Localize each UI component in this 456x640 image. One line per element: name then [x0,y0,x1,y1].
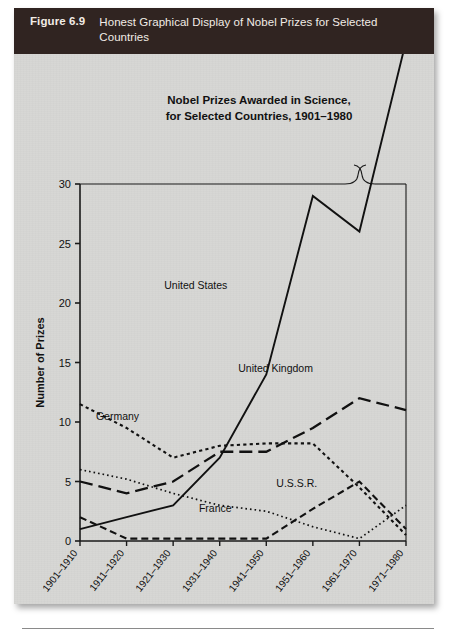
page-root: Figure 6.9 Honest Graphical Display of N… [0,0,456,640]
y-tick-label: 15 [59,357,71,369]
page-bottom-rule [22,628,434,629]
chart-title-line2: for Selected Countries, 1901–1980 [166,110,353,122]
figure-number: Figure 6.9 [30,15,85,54]
y-axis-title: Number of Prizes [34,317,46,407]
y-tick-label: 10 [59,416,71,428]
series-line-germany [80,404,406,535]
y-tick-label: 0 [65,535,71,547]
x-tick-label: 1971–1980 [366,547,406,594]
figure-caption-text: Honest Graphical Display of Nobel Prizes… [99,15,418,54]
series-label: United States [164,279,227,291]
x-tick-label: 1961–1970 [320,547,360,594]
series-label: Germany [96,410,140,422]
x-tick-label: 1931–1940 [180,547,220,594]
series-line-u-s-s-r [80,482,406,539]
series-label: United Kingdom [238,362,313,374]
figure-caption-bar: Figure 6.9 Honest Graphical Display of N… [14,8,434,54]
series-line-france [80,470,406,539]
x-tick-label: 1951–1960 [273,547,313,594]
series-line-united-states [80,54,406,529]
chart-title: Nobel Prizes Awarded in Science, for Sel… [166,94,353,122]
y-axis: 051015202530 [59,178,80,547]
y-tick-label: 30 [59,178,71,190]
y-tick-label: 25 [59,238,71,250]
x-axis: 1901–19101911–19201921–19301931–19401941… [40,541,406,594]
chart-container: Nobel Prizes Awarded in Science, for Sel… [14,54,434,604]
line-chart: Nobel Prizes Awarded in Science, for Sel… [14,54,434,604]
chart-title-line1: Nobel Prizes Awarded in Science, [167,94,350,106]
series-label: France [199,502,232,514]
series-lines [80,54,406,539]
x-tick-label: 1941–1950 [226,547,266,594]
y-tick-label: 20 [59,297,71,309]
series-labels: United StatesUnited KingdomGermanyFrance… [96,279,317,515]
y-tick-label: 5 [65,476,71,488]
x-tick-label: 1911–1920 [87,547,126,593]
x-tick-label: 1921–1930 [133,547,173,594]
series-label: U.S.S.R. [276,477,317,489]
figure-panel: Figure 6.9 Honest Graphical Display of N… [14,8,434,604]
x-tick-label: 1901–1910 [40,547,80,594]
